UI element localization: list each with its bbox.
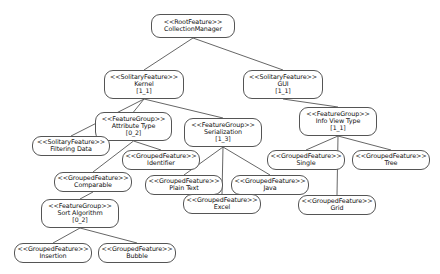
node-single[interactable]: <<GroupedFeature>>Single: [267, 150, 345, 170]
edge-attribute-type-to-identifier: [134, 141, 162, 150]
edge-sort-algorithm-to-bubble: [80, 228, 137, 243]
edge-collection-manager-to-gui: [193, 38, 283, 70]
node-label: Insertion: [39, 253, 66, 260]
edge-info-view-type-to-tree: [338, 136, 391, 150]
node-excel[interactable]: <<GroupedFeature>>Excel: [183, 194, 261, 214]
edge-collection-manager-to-kernel: [144, 38, 193, 70]
node-cardinality: [1_1]: [330, 125, 345, 132]
node-bubble[interactable]: <<GroupedFeature>>Bubble: [98, 243, 176, 263]
node-cardinality: [1_3]: [215, 136, 230, 143]
node-label: Grid: [330, 205, 343, 212]
node-label: Single: [296, 160, 315, 167]
node-cardinality: [0_2]: [72, 217, 87, 224]
node-cardinality: [1_1]: [136, 88, 151, 95]
node-identifier[interactable]: <<GroupedFeature>>Identifier: [122, 150, 200, 170]
node-attribute-type[interactable]: <<FeatureGroup>>Attribute Type[0_2]: [95, 112, 172, 141]
node-label: Tree: [385, 160, 398, 167]
edge-info-view-type-to-single: [306, 136, 338, 150]
node-label: CollectionManager: [164, 26, 222, 33]
node-serialization[interactable]: <<FeatureGroup>>Serialization[1_3]: [184, 118, 262, 147]
node-label: Excel: [214, 204, 230, 211]
edge-gui-to-info-view-type: [283, 99, 338, 107]
node-java[interactable]: <<GroupedFeature>>Java: [231, 175, 309, 195]
node-label: Java: [263, 185, 276, 192]
node-kernel[interactable]: <<SolitaryFeature>>Kernel[1_1]: [104, 70, 184, 99]
node-insertion[interactable]: <<GroupedFeature>>Insertion: [14, 243, 92, 263]
node-tree[interactable]: <<GroupedFeature>>Tree: [352, 150, 430, 170]
node-grid[interactable]: <<GroupedFeature>>Grid: [298, 195, 376, 215]
node-plain-text[interactable]: <<GroupedFeature>>Plain Text: [145, 175, 223, 195]
node-info-view-type[interactable]: <<FeatureGroup>>Info View Type[1_1]: [299, 107, 377, 136]
node-label: Bubble: [126, 253, 148, 260]
node-label: Filtering Data: [50, 146, 92, 153]
node-cardinality: [0_2]: [126, 130, 141, 137]
node-label: Identifier: [147, 160, 175, 167]
node-label: Comparable: [74, 182, 112, 189]
node-label: Plain Text: [169, 185, 198, 192]
node-filtering-data[interactable]: <<SolitaryFeature>>Filtering Data: [32, 136, 110, 156]
edge-sort-algorithm-to-insertion: [53, 228, 80, 243]
edge-serialization-to-java: [223, 147, 270, 175]
node-gui[interactable]: <<SolitaryFeature>>GUI[1_1]: [243, 70, 323, 99]
node-comparable[interactable]: <<GroupedFeature>>Comparable: [54, 172, 132, 192]
edge-comparable-to-sort-algorithm: [80, 192, 93, 199]
node-collection-manager[interactable]: <<RootFeature>>CollectionManager: [151, 14, 235, 38]
feature-diagram-canvas: <<RootFeature>>CollectionManager<<Solita…: [0, 0, 440, 274]
edge-kernel-to-attribute-type: [134, 99, 145, 112]
node-cardinality: [1_1]: [275, 88, 290, 95]
node-sort-algorithm[interactable]: <<FeatureGroup>>Sort Algorithm[0_2]: [41, 199, 119, 228]
